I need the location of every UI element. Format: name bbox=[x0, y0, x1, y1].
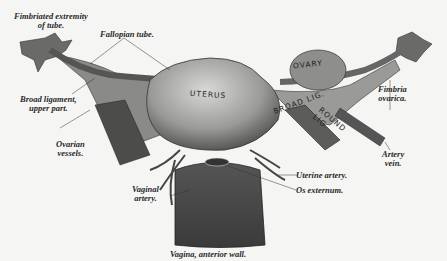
vagina bbox=[175, 163, 265, 248]
label-artery-vein: Artery vein. bbox=[382, 150, 404, 168]
label-line: vessels. bbox=[56, 149, 85, 158]
anatomy-figure: UTERUS OVARY BROAD LIG. ROUND LIG. Fimbr… bbox=[0, 0, 447, 261]
label-uterine-artery: Uterine artery. bbox=[296, 171, 347, 180]
label-line: ovarica. bbox=[378, 94, 407, 103]
label-line: of tube. bbox=[14, 21, 88, 30]
label-line: artery. bbox=[132, 194, 159, 203]
left-fimbria bbox=[20, 33, 72, 72]
caption-vagina-anterior-wall: Vagina, anterior wall. bbox=[170, 250, 246, 259]
label-line: vein. bbox=[382, 159, 404, 168]
label-vaginal-artery: Vaginal artery. bbox=[132, 185, 159, 203]
label-fallopian-tube: Fallopian tube. bbox=[100, 30, 154, 39]
uterus bbox=[147, 58, 280, 150]
label-os-externum: Os externum. bbox=[296, 186, 343, 195]
label-ovarian-vessels: Ovarian vessels. bbox=[56, 140, 85, 158]
label-line: upper part. bbox=[20, 104, 77, 113]
right-fimbria bbox=[396, 32, 432, 62]
label-fimbria-ovarica: Fimbria ovarica. bbox=[378, 85, 407, 103]
anatomy-drawing bbox=[0, 0, 447, 261]
label-fimbriated-extremity: Fimbriated extremity of tube. bbox=[14, 12, 88, 30]
label-broad-ligament-upper: Broad ligament, upper part. bbox=[20, 95, 77, 113]
os-externum bbox=[205, 158, 229, 166]
